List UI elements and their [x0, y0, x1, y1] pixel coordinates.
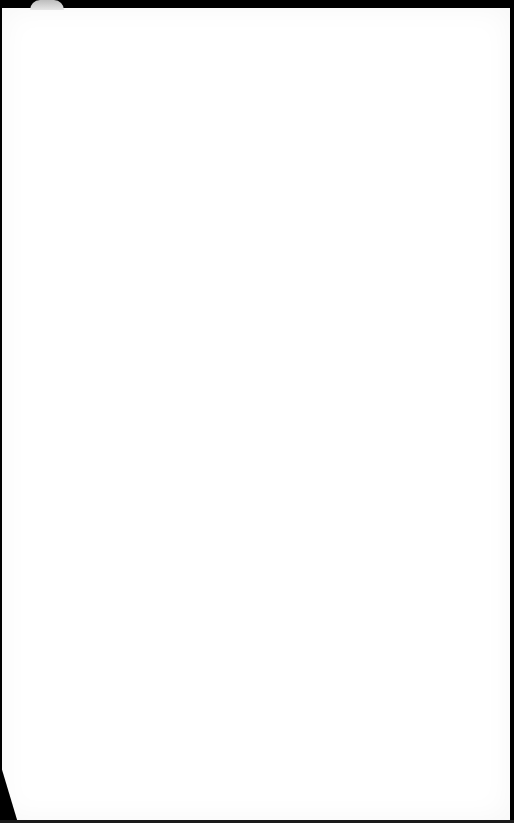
dark-corner-wedge: [0, 763, 18, 823]
blank-paper-sheet: [2, 8, 510, 820]
paper-curled-corner: [30, 0, 64, 10]
